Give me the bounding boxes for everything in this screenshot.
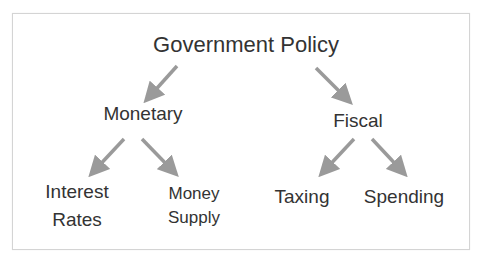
node-money-supply: Money Supply <box>156 182 232 230</box>
node-interest-rates: Interest Rates <box>32 178 122 234</box>
node-spending: Spending <box>352 187 456 206</box>
node-label: Monetary <box>88 104 198 123</box>
node-label: Fiscal <box>318 111 398 130</box>
node-taxing: Taxing <box>262 187 342 206</box>
node-label: Spending <box>352 187 456 206</box>
node-government-policy: Government Policy <box>142 34 350 56</box>
node-fiscal: Fiscal <box>318 111 398 130</box>
node-label-line2: Supply <box>156 206 232 230</box>
node-label-line2: Rates <box>32 206 122 234</box>
node-monetary: Monetary <box>88 104 198 123</box>
node-label-line1: Interest <box>32 178 122 206</box>
node-label: Government Policy <box>142 34 350 56</box>
node-label: Taxing <box>262 187 342 206</box>
node-label-line1: Money <box>156 182 232 206</box>
